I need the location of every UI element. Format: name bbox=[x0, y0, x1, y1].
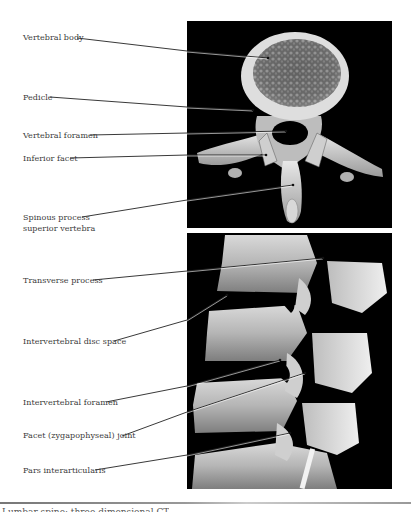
label-spinous-process: Spinous process bbox=[23, 212, 90, 223]
spine-lateral-illustration bbox=[187, 233, 392, 489]
label-pedicle: Pedicle bbox=[23, 92, 53, 103]
caption-divider bbox=[0, 502, 411, 504]
label-vertebral-body: Vertebral body bbox=[23, 32, 84, 43]
axial-vertebra-image bbox=[187, 21, 392, 228]
label-inferior-facet: Inferior facet bbox=[23, 153, 77, 164]
label-transverse-process: Transverse process bbox=[23, 275, 103, 286]
label-intervertebral-disc-space: Intervertebral disc space bbox=[23, 336, 126, 347]
vertebra-axial-illustration bbox=[187, 21, 392, 228]
figure-caption: Lumbar spine: three-dimensional CT bbox=[2, 506, 169, 512]
label-intervertebral-foramen: Intervertebral foramen bbox=[23, 397, 118, 408]
label-vertebral-foramen: Vertebral foramen bbox=[23, 130, 98, 141]
label-superior-vertebra: superior vertebra bbox=[23, 223, 95, 234]
lateral-spine-image bbox=[187, 233, 392, 489]
anatomy-figure: Vertebral body Pedicle Vertebral foramen… bbox=[0, 0, 411, 512]
label-facet-joint: Facet (zygapophyseal) joint bbox=[23, 430, 136, 441]
label-pars-interarticularis: Pars interarticularis bbox=[23, 465, 106, 476]
